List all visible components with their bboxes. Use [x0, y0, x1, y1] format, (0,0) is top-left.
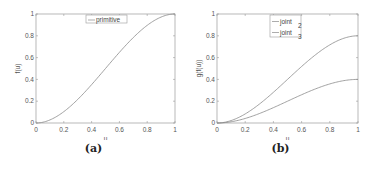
x-axis-label: u [104, 135, 108, 140]
x-axis-label: u [286, 135, 290, 140]
x-tick-label: 0 [215, 126, 219, 133]
y-tick-label: 1 [30, 10, 34, 17]
x-tick-label: 0.2 [59, 126, 68, 133]
x-tick-label: 0 [34, 126, 38, 133]
legend: joint2joint3 [270, 15, 302, 40]
chart-b: 00.20.40.60.8100.20.40.60.81ug(f(u))join… [187, 0, 374, 140]
y-axis-label: f(u) [14, 64, 22, 74]
x-tick-label: 0.2 [241, 126, 250, 133]
x-tick-label: 0.8 [325, 126, 334, 133]
legend-label: primitive [96, 16, 121, 24]
x-tick-label: 0.4 [269, 126, 278, 133]
caption-b: (b) [187, 142, 374, 155]
y-tick-label: 0.6 [25, 54, 34, 61]
x-tick-label: 1 [173, 126, 177, 133]
y-tick-label: 0.4 [25, 76, 34, 83]
x-tick-label: 0.6 [297, 126, 306, 133]
y-tick-label: 0.8 [206, 32, 215, 39]
panel-b: 00.20.40.60.8100.20.40.60.81ug(f(u))join… [187, 0, 374, 172]
y-tick-label: 0 [211, 119, 215, 126]
panel-a: 00.20.40.60.8100.20.40.60.81uf(u)primiti… [0, 0, 187, 172]
x-tick-label: 0.4 [87, 126, 96, 133]
legend: primitive [86, 15, 127, 24]
y-tick-label: 0.8 [25, 32, 34, 39]
legend-label-subscript: 3 [298, 33, 302, 40]
x-tick-label: 1 [356, 126, 360, 133]
y-axis-label: g(f(u)) [195, 60, 203, 78]
y-tick-label: 0.6 [206, 54, 215, 61]
legend-label: joint [279, 29, 292, 37]
x-tick-label: 0.8 [143, 126, 152, 133]
x-tick-label: 0.6 [115, 126, 124, 133]
y-tick-label: 0.2 [206, 97, 215, 104]
y-tick-label: 0 [30, 119, 34, 126]
caption-a: (a) [0, 142, 187, 155]
legend-label-subscript: 2 [298, 22, 302, 29]
legend-label: joint [279, 18, 292, 26]
y-tick-label: 1 [211, 10, 215, 17]
y-tick-label: 0.4 [206, 76, 215, 83]
chart-a: 00.20.40.60.8100.20.40.60.81uf(u)primiti… [0, 0, 187, 140]
y-tick-label: 0.2 [25, 97, 34, 104]
